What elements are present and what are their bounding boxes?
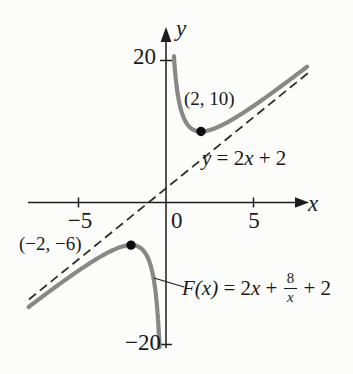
y-axis-label: y xyxy=(176,17,186,41)
asymptote-label-var-y: y xyxy=(202,146,211,170)
function-label-tail: + 2 xyxy=(298,277,331,299)
y-axis-arrowhead xyxy=(161,27,172,42)
point-label-maximum: (−2, −6) xyxy=(19,234,82,254)
asymptote-line xyxy=(29,72,310,300)
point-label-minimum: (2, 10) xyxy=(184,89,235,109)
function-label-plus: + xyxy=(260,277,282,299)
plot-svg xyxy=(0,0,353,374)
function-label-head: F(x) xyxy=(182,277,218,299)
graph-figure: y x 20 −20 0 −5 5 (2, 10) (−2, −6) y = 2… xyxy=(0,0,353,374)
function-label-leader xyxy=(154,278,184,287)
asymptote-label-var-x: x xyxy=(244,146,253,170)
fraction-numerator: 8 xyxy=(284,271,298,289)
asymptote-label-tail: + 2 xyxy=(254,146,287,170)
y-tick-label-neg20: −20 xyxy=(101,331,161,355)
point-marker-1 xyxy=(126,240,135,249)
x-tick-label-neg5: −5 xyxy=(55,209,105,233)
origin-label: 0 xyxy=(171,209,183,233)
x-axis-label: x xyxy=(308,192,318,216)
asymptote-label-mid: = 2 xyxy=(211,146,244,170)
fraction-8-over-x: 8x xyxy=(284,271,298,305)
function-label-var: x xyxy=(251,277,260,299)
fraction-denominator: x xyxy=(287,289,294,305)
x-axis-arrowhead xyxy=(295,197,309,208)
function-label-mid: = 2 xyxy=(218,277,251,299)
x-tick-label-5: 5 xyxy=(229,209,279,233)
point-marker-0 xyxy=(196,127,205,136)
y-tick-label-20: 20 xyxy=(106,45,156,69)
function-label: F(x) = 2x + 8x + 2 xyxy=(182,270,331,306)
asymptote-label: y = 2x + 2 xyxy=(202,147,286,169)
